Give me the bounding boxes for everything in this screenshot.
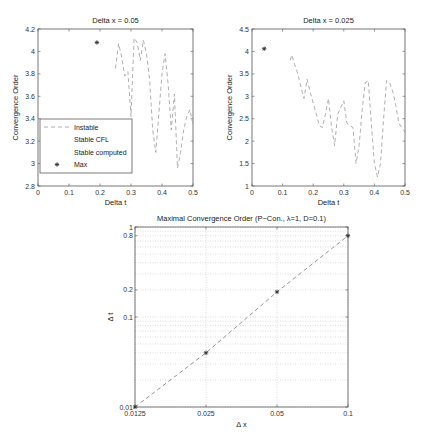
x-tick-label: 0.1 [343,410,353,417]
y-tick-label: 0.01 [119,404,133,411]
max-point-marker-icon [346,234,350,238]
legend-entry: Instable [74,124,99,131]
y-tick-label: 1.5 [239,160,249,167]
x-tick-label: 0.2 [308,189,318,196]
figure-canvas: Delta x = 0.0500.10.20.30.40.52.833.23.4… [0,0,426,438]
y-axis-label: Convergence Order [11,74,20,140]
x-tick-label: 0 [36,189,40,196]
max-point-marker-icon [133,405,137,409]
plot-maximal-convergence-order: Maximal Convergence Order (P−Con., λ=1, … [106,214,353,429]
y-tick-label: 3.6 [25,93,35,100]
y-tick-label: 3.8 [25,70,35,77]
y-axis-label: Convergence Order [225,74,234,140]
y-tick-label: 3.5 [239,70,249,77]
x-axis-label: Delta t [318,198,341,207]
y-tick-label: 4 [245,48,249,55]
y-tick-label: 0.8 [123,232,133,239]
x-axis-label: Delta t [105,198,128,207]
x-tick-label: 0.4 [370,189,380,196]
x-tick-label: 0.3 [126,189,136,196]
legend-entry: Stable CFL [74,136,109,143]
y-tick-label: 3.4 [25,115,35,122]
x-tick-label: 0 [250,189,254,196]
plot-area [252,29,405,186]
max-marker-icon [95,40,99,44]
y-tick-label: 1 [245,183,249,190]
x-tick-label: 0.1 [64,189,74,196]
x-tick-label: 0.025 [197,410,215,417]
legend-entry: Max [74,161,88,168]
plot-delta-x-0-025: Delta x = 0.02500.10.20.30.40.511.522.53… [225,16,410,207]
y-axis-label: Δ t [106,312,115,322]
y-tick-label: 0.1 [123,314,133,321]
x-tick-label: 0.5 [400,189,410,196]
y-tick-label: 3 [245,93,249,100]
x-tick-label: 0.4 [157,189,167,196]
y-tick-label: 3 [31,160,35,167]
y-tick-label: 2.8 [25,183,35,190]
x-axis-label: Δ x [236,420,247,429]
x-tick-label: 0.5 [188,189,198,196]
max-point-marker-icon [275,290,279,294]
y-tick-label: 1 [129,224,133,231]
plot-title: Delta x = 0.05 [92,16,139,25]
x-tick-label: 0.05 [270,410,284,417]
y-tick-label: 4 [31,48,35,55]
x-tick-label: 0.3 [339,189,349,196]
max-marker-icon [262,47,266,51]
y-tick-label: 4.5 [239,26,249,33]
legend-star-icon [55,162,59,166]
plot-title: Maximal Convergence Order (P−Con., λ=1, … [157,214,327,223]
x-tick-label: 0.0125 [124,410,146,417]
plot-area [135,227,348,407]
y-tick-label: 3.2 [25,138,35,145]
plot-delta-x-0-05: Delta x = 0.0500.10.20.30.40.52.833.23.4… [11,16,198,207]
x-tick-label: 0.2 [95,189,105,196]
y-tick-label: 4.2 [25,26,35,33]
legend: InstableStable CFLStable computedMax [40,119,132,173]
y-tick-label: 2 [245,138,249,145]
max-point-marker-icon [204,351,208,355]
y-tick-label: 0.2 [123,286,133,293]
y-tick-label: 2.5 [239,115,249,122]
x-tick-label: 0.1 [278,189,288,196]
plot-title: Delta x = 0.025 [303,16,354,25]
legend-entry: Stable computed [74,149,127,157]
